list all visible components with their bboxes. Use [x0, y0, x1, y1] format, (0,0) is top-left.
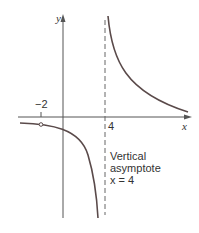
curve-right-branch — [108, 16, 188, 112]
annotation-line1: Vertical — [110, 150, 146, 162]
annotation-line3: x = 4 — [110, 174, 134, 186]
x-axis-label: x — [182, 120, 187, 132]
tick-label-neg-two: −2 — [35, 98, 48, 110]
y-axis-label: y — [56, 12, 61, 24]
y-axis-arrow-icon — [61, 14, 66, 22]
tick-label-four: 4 — [108, 120, 114, 132]
x-axis-arrow-icon — [184, 115, 192, 120]
hole-point — [39, 123, 43, 127]
curve-left-branch — [20, 123, 98, 218]
annotation-line2: asymptote — [110, 162, 161, 174]
graph — [0, 0, 199, 233]
